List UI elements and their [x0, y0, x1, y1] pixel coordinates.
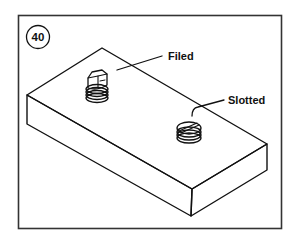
block-left-face [27, 95, 192, 216]
figure-number: 40 [32, 31, 45, 43]
figure-number-badge: 40 [27, 26, 50, 49]
figure-frame [19, 16, 282, 229]
slotted-label: Slotted [228, 94, 265, 106]
slotted-screw [177, 122, 201, 143]
block-top-face [27, 48, 267, 189]
block-right-face [191, 144, 267, 216]
filed-leader-line [117, 56, 162, 70]
illustration-figure: 40 Filed [0, 0, 296, 240]
illustration-canvas: 40 Filed [0, 0, 296, 240]
filed-label: Filed [168, 50, 194, 62]
terminal-block [27, 48, 267, 216]
filed-screw [86, 70, 108, 103]
